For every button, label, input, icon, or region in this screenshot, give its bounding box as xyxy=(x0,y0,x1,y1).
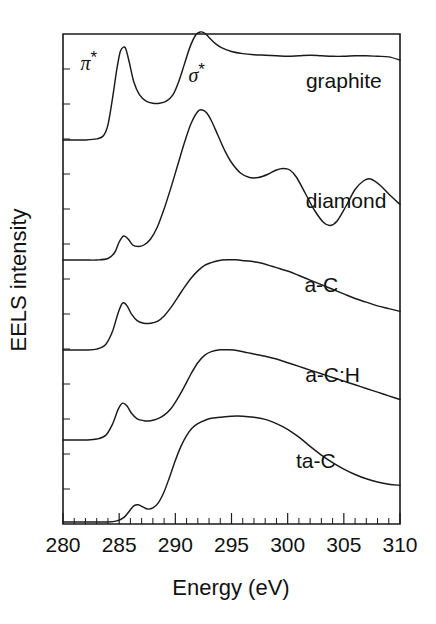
curve-label-a-c-h: a-C:H xyxy=(305,363,360,386)
sigma-star-annotation: σ* xyxy=(188,60,205,86)
x-tick-label: 295 xyxy=(214,533,249,556)
x-axis-ticks xyxy=(63,513,400,524)
eels-spectra-figure: 280285290295300305310 graphitediamonda-C… xyxy=(0,0,436,624)
spectrum-curve-diamond xyxy=(63,110,400,260)
pi-star-annotation: π* xyxy=(81,48,98,74)
x-axis-label: Energy (eV) xyxy=(172,575,289,600)
curve-label-ta-c: ta-C xyxy=(296,449,336,472)
chart-canvas: 280285290295300305310 graphitediamonda-C… xyxy=(0,0,436,624)
x-axis-tick-labels: 280285290295300305310 xyxy=(45,533,417,556)
x-tick-label: 300 xyxy=(270,533,305,556)
x-tick-label: 305 xyxy=(326,533,361,556)
x-tick-label: 285 xyxy=(102,533,137,556)
spectra-curves xyxy=(63,32,400,522)
y-axis-label: EELS intensity xyxy=(6,208,31,351)
x-tick-label: 280 xyxy=(45,533,80,556)
spectrum-curve-a-c xyxy=(63,260,400,350)
x-tick-label: 310 xyxy=(382,533,417,556)
curve-labels: graphitediamonda-Ca-C:Hta-C xyxy=(296,69,386,472)
curve-label-diamond: diamond xyxy=(306,189,387,212)
curve-label-graphite: graphite xyxy=(306,69,382,92)
spectrum-curve-ta-c xyxy=(63,416,400,522)
plot-frame xyxy=(63,34,400,524)
peak-annotations: π*σ* xyxy=(81,48,206,86)
curve-label-a-c: a-C xyxy=(304,273,338,296)
y-axis-ticks xyxy=(63,69,70,489)
x-tick-label: 290 xyxy=(158,533,193,556)
